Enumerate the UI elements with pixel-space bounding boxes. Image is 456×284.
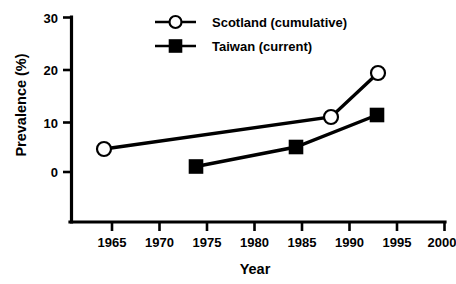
legend-entry-scotland: Scotland (cumulative): [155, 15, 347, 30]
legend-label-scotland: Scotland (cumulative): [212, 15, 347, 30]
x-tick-label-1975: 1975: [193, 235, 222, 250]
legend-entry-taiwan: Taiwan (current): [155, 39, 312, 54]
x-axis-title: Year: [240, 261, 271, 277]
chart-figure: 30 20 10 0 1965 1970 1975 1980 1985 1990…: [0, 0, 456, 284]
series-line-scotland: [104, 73, 378, 149]
x-tick-label-1965: 1965: [98, 235, 127, 250]
data-point-taiwan-1974: [190, 160, 203, 173]
y-axis-title: Prevalence (%): [13, 53, 29, 156]
x-tick-label-1985: 1985: [288, 235, 317, 250]
y-tick-label-0: 0: [51, 165, 58, 180]
y-tick-label-30: 30: [44, 11, 58, 26]
data-point-scotland-1994: [371, 66, 385, 80]
x-tick-label-2000: 2000: [428, 235, 456, 250]
x-tick-label-1970: 1970: [145, 235, 174, 250]
x-tick-label-1980: 1980: [240, 235, 269, 250]
data-point-scotland-1989: [324, 110, 338, 124]
y-tick-label-10: 10: [44, 116, 58, 131]
chart-legend: Scotland (cumulative) Taiwan (current): [155, 15, 347, 54]
data-point-taiwan-1985: [290, 141, 303, 154]
legend-marker-open-circle-icon: [170, 16, 182, 28]
legend-label-taiwan: Taiwan (current): [212, 39, 312, 54]
data-point-scotland-1964: [97, 142, 111, 156]
line-chart: 30 20 10 0 1965 1970 1975 1980 1985 1990…: [0, 0, 456, 284]
y-tick-label-20: 20: [44, 63, 58, 78]
legend-marker-filled-square-icon: [170, 40, 182, 52]
data-point-taiwan-1994: [371, 109, 384, 122]
x-tick-label-1995: 1995: [383, 235, 412, 250]
x-tick-label-1990: 1990: [335, 235, 364, 250]
